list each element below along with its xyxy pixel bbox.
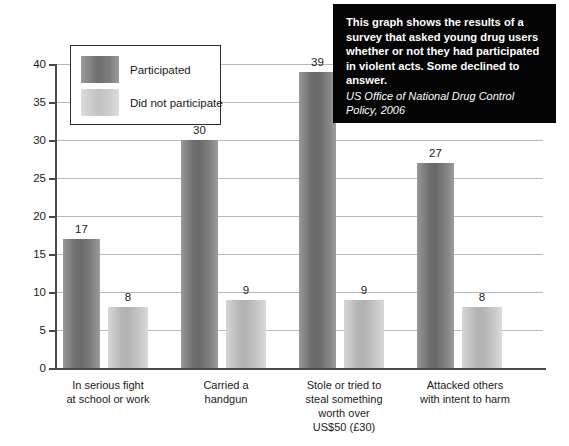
bar-value-label: 30 bbox=[193, 124, 206, 136]
y-tick-label: 5 bbox=[40, 324, 46, 336]
y-tick-label: 30 bbox=[33, 134, 46, 146]
x-category-label-1: In serious fight at school or work bbox=[43, 378, 173, 406]
category-line: with intent to harm bbox=[397, 392, 533, 406]
y-axis-line bbox=[55, 64, 57, 369]
y-tick-label: 25 bbox=[33, 172, 46, 184]
bar-value-label: 27 bbox=[429, 147, 442, 159]
legend-label: Participated bbox=[130, 64, 191, 76]
x-axis-line bbox=[55, 368, 546, 370]
bar-did-not-participate-3[interactable]: 9 bbox=[344, 300, 384, 368]
y-tick-label: 35 bbox=[33, 96, 46, 108]
y-tick-label: 0 bbox=[40, 362, 46, 374]
legend-swatch-icon bbox=[81, 89, 119, 116]
bar-participated-2[interactable]: 30 bbox=[181, 140, 218, 368]
legend-item-did-not-participate[interactable]: Did not participate bbox=[81, 86, 220, 119]
category-line: Stole or tried to bbox=[279, 378, 409, 392]
x-category-label-2: Carried a handgun bbox=[161, 378, 291, 406]
bar-value-label: 39 bbox=[311, 56, 324, 68]
annotation-source: US Office of National Drug Control Polic… bbox=[346, 89, 544, 118]
legend-item-participated[interactable]: Participated bbox=[81, 53, 220, 86]
bar-value-label: 17 bbox=[75, 223, 88, 235]
x-category-label-4: Attacked others with intent to harm bbox=[397, 378, 533, 406]
y-tick-label: 10 bbox=[33, 286, 46, 298]
bar-did-not-participate-1[interactable]: 8 bbox=[108, 307, 148, 368]
bar-value-label: 9 bbox=[361, 284, 367, 296]
category-line: handgun bbox=[161, 392, 291, 406]
category-line: at school or work bbox=[43, 392, 173, 406]
bar-value-label: 8 bbox=[125, 291, 131, 303]
annotation-body: This graph shows the results of a survey… bbox=[346, 15, 544, 88]
bar-chart: Percentage of drug users 40 35 30 25 20 bbox=[0, 0, 569, 446]
bar-participated-4[interactable]: 27 bbox=[417, 163, 454, 368]
category-line: Carried a bbox=[161, 378, 291, 392]
category-line: worth over bbox=[279, 406, 409, 420]
bar-did-not-participate-2[interactable]: 9 bbox=[226, 300, 266, 368]
chart-legend: Participated Did not participate bbox=[70, 45, 221, 125]
category-line: Attacked others bbox=[397, 378, 533, 392]
legend-label: Did not participate bbox=[130, 97, 223, 109]
x-category-label-3: Stole or tried to steal something worth … bbox=[279, 378, 409, 434]
annotation-box: This graph shows the results of a survey… bbox=[333, 4, 556, 123]
category-line: In serious fight bbox=[43, 378, 173, 392]
bar-participated-1[interactable]: 17 bbox=[63, 239, 100, 368]
bar-value-label: 8 bbox=[479, 291, 485, 303]
y-tick-label: 15 bbox=[33, 248, 46, 260]
y-tick-label: 20 bbox=[33, 210, 46, 222]
bar-did-not-participate-4[interactable]: 8 bbox=[462, 307, 502, 368]
bar-participated-3[interactable]: 39 bbox=[299, 72, 336, 368]
category-line: US$50 (£30) bbox=[279, 420, 409, 434]
category-line: steal something bbox=[279, 392, 409, 406]
y-tick-label: 40 bbox=[33, 58, 46, 70]
bar-value-label: 9 bbox=[243, 284, 249, 296]
legend-swatch-icon bbox=[81, 56, 119, 83]
